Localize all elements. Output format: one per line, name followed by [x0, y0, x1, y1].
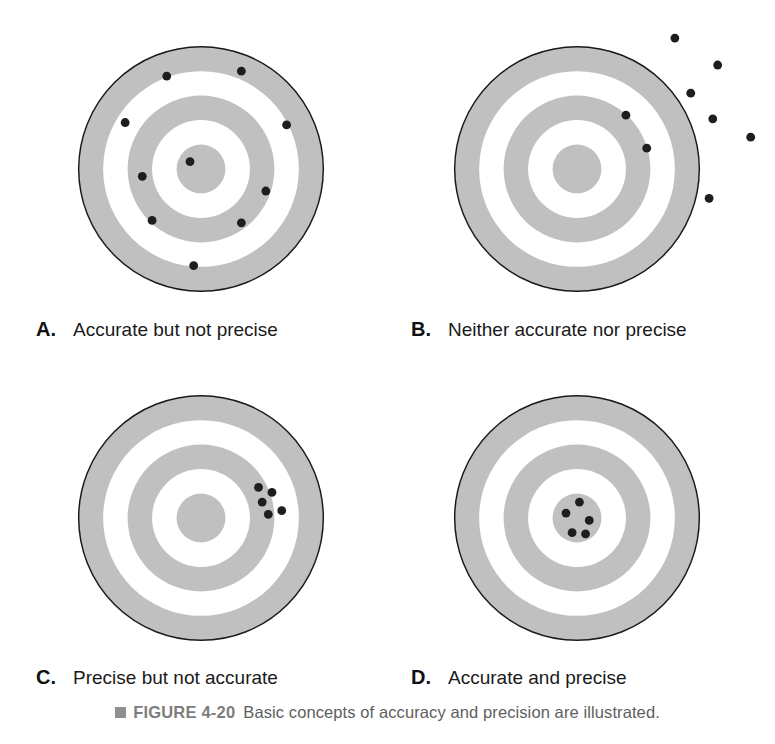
target-c — [64, 381, 338, 655]
panel-b-letter: B. — [411, 318, 431, 341]
data-point — [121, 118, 130, 127]
data-point — [581, 529, 590, 538]
data-point — [261, 187, 270, 196]
data-point — [713, 61, 722, 70]
data-point — [186, 157, 195, 166]
bullseye-a-svg — [64, 32, 338, 306]
data-point — [268, 488, 277, 497]
panel-d-caption: D. Accurate and precise — [411, 666, 627, 689]
data-point — [686, 89, 695, 98]
ring-bullseye-center — [177, 145, 226, 194]
figure-caption: FIGURE 4-20 Basic concepts of accuracy a… — [0, 703, 775, 722]
panel-a-label: Accurate but not precise — [73, 319, 278, 341]
data-point — [189, 261, 198, 270]
panel-a-caption: A. Accurate but not precise — [36, 318, 278, 341]
data-point — [622, 111, 631, 120]
panel-b-label: Neither accurate nor precise — [448, 319, 687, 341]
bullseye-c-svg — [64, 381, 338, 655]
target-b — [440, 32, 714, 306]
data-point — [585, 516, 594, 525]
data-point — [746, 133, 755, 142]
data-point — [575, 498, 584, 507]
data-point — [642, 144, 651, 153]
data-point — [282, 121, 291, 130]
panel-c-caption: C. Precise but not accurate — [36, 666, 278, 689]
panel-a-letter: A. — [36, 318, 56, 341]
figure-container: A. Accurate but not precise B. Neither a… — [0, 0, 775, 744]
data-point — [705, 194, 714, 203]
panel-b-caption: B. Neither accurate nor precise — [411, 318, 687, 341]
panel-c-letter: C. — [36, 666, 56, 689]
data-point — [264, 510, 273, 519]
target-a — [64, 32, 338, 306]
bullseye-b-svg — [440, 32, 714, 306]
square-bullet-icon — [115, 707, 126, 718]
figure-caption-text: Basic concepts of accuracy and precision… — [243, 703, 660, 722]
data-point — [162, 72, 171, 81]
target-d — [440, 381, 714, 655]
data-point — [237, 67, 246, 76]
panel-c-label: Precise but not accurate — [73, 667, 278, 689]
data-point — [148, 216, 157, 225]
data-point — [258, 498, 267, 507]
data-point — [708, 114, 717, 123]
bullseye-d-svg — [440, 381, 714, 655]
ring-bullseye-center — [553, 145, 602, 194]
data-point — [237, 218, 246, 227]
data-point — [138, 172, 147, 181]
data-point — [254, 483, 263, 492]
ring-bullseye-center — [177, 494, 226, 543]
data-point — [670, 34, 679, 43]
panel-d-letter: D. — [411, 666, 431, 689]
data-point — [562, 509, 571, 518]
panel-d-label: Accurate and precise — [448, 667, 627, 689]
data-point — [568, 528, 577, 537]
data-point — [277, 506, 286, 515]
figure-number-label: FIGURE 4-20 — [133, 703, 235, 722]
